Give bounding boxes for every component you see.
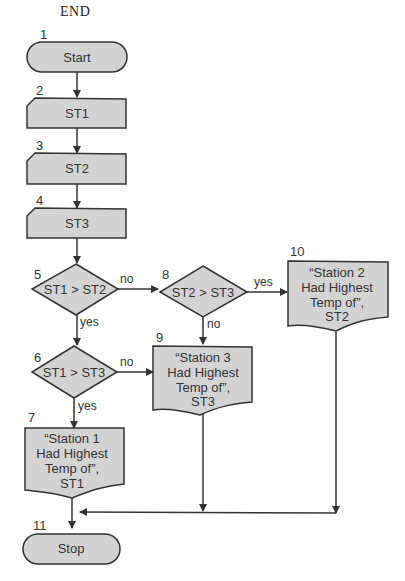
node-line: Had Highest <box>36 446 108 461</box>
node-number: 4 <box>36 193 43 208</box>
node-label: ST1 > ST2 <box>44 282 107 297</box>
node-number: 9 <box>156 330 163 345</box>
node-number: 10 <box>290 244 304 259</box>
node-decision-st1-gt-st2: 5 ST1 > ST2 <box>32 264 118 315</box>
edge-label-6-no: no <box>120 355 134 369</box>
node-number: 8 <box>162 267 169 282</box>
node-number: 3 <box>36 138 43 153</box>
node-line: “Station 1 <box>44 431 100 446</box>
node-label: ST2 <box>65 161 89 176</box>
node-line: ST3 <box>191 394 215 409</box>
node-decision-st1-gt-st3: 6 ST1 > ST3 <box>32 346 117 398</box>
edge-label-8-no: no <box>207 317 221 331</box>
node-label: Start <box>63 50 91 65</box>
node-line: Had Highest <box>167 365 239 380</box>
flowchart: 1 Start 2 ST1 3 ST2 4 ST3 5 ST1 > ST2 no… <box>0 0 405 581</box>
node-label: ST3 <box>65 216 89 231</box>
node-label: Stop <box>58 541 85 556</box>
edge-label-6-yes: yes <box>78 399 97 413</box>
node-decision-st2-gt-st3: 8 ST2 > ST3 <box>160 266 247 317</box>
node-line: Temp of”, <box>310 295 364 310</box>
node-line: “Station 2 <box>309 265 365 280</box>
node-line: Had Highest <box>301 280 373 295</box>
node-label: ST1 <box>65 106 89 121</box>
node-number: 1 <box>40 27 47 42</box>
node-number: 7 <box>28 410 35 425</box>
node-line: ST1 <box>60 476 84 491</box>
node-label: ST2 > ST3 <box>172 285 235 300</box>
edge-label-8-yes: yes <box>254 275 273 289</box>
node-number: 6 <box>34 350 41 365</box>
node-line: Temp of”, <box>45 461 99 476</box>
node-number: 11 <box>33 518 47 533</box>
node-number: 2 <box>36 83 43 98</box>
edge-label-5-no: no <box>120 272 134 286</box>
node-line: “Station 3 <box>175 350 231 365</box>
edge-label-5-yes: yes <box>80 315 99 329</box>
node-line: ST2 <box>325 309 349 324</box>
node-output-station2: 10 “Station 2 Had Highest Temp of”, ST2 <box>288 244 388 331</box>
node-start: 1 Start <box>27 27 127 72</box>
node-line: Temp of”, <box>176 380 230 395</box>
node-label: ST1 > ST3 <box>43 365 106 380</box>
node-number: 5 <box>34 267 41 282</box>
